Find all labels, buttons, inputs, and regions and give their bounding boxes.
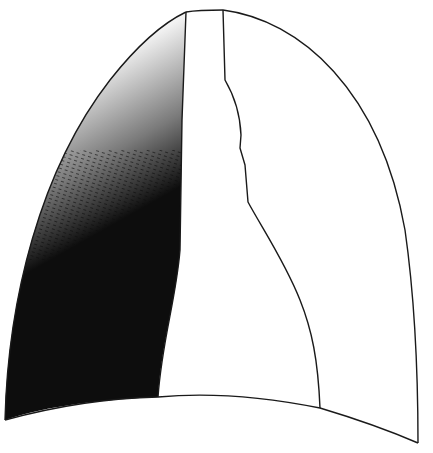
right-outer-border <box>223 10 418 443</box>
right-mediastinal-border <box>223 10 320 408</box>
lung-diagram <box>0 0 433 453</box>
opacity-shading <box>0 0 200 453</box>
apex-arc <box>186 10 223 12</box>
